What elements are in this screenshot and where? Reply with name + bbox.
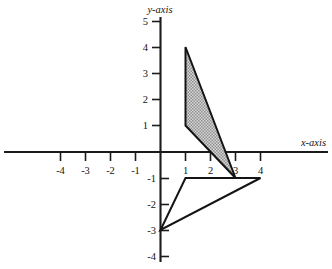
coordinate-plane-figure: -4 -3 -2 -1 1 2 3 4 5 4 3 2 1 -1 -2 -3 -…: [0, 0, 332, 269]
y-axis-label: y-axis: [146, 4, 172, 15]
unshaded-triangle-shape: [161, 178, 261, 230]
x-tick-label-neg4: -4: [56, 165, 65, 176]
x-tick-label-1: 1: [183, 165, 188, 176]
unshaded-triangle: [161, 178, 261, 230]
y-tick-label-5: 5: [143, 16, 148, 27]
axes-group: [4, 17, 328, 262]
y-axis-tick-labels: 5 4 3 2 1 -1 -2 -3 -4: [143, 16, 157, 262]
y-tick-label-2: 2: [143, 94, 148, 105]
y-tick-label-3: 3: [143, 68, 148, 79]
x-tick-label-neg2: -2: [106, 165, 115, 176]
x-tick-label-3: 3: [233, 165, 238, 176]
axis-names: y-axis x-axis: [146, 4, 326, 148]
y-tick-label-neg2: -2: [147, 199, 156, 210]
y-tick-label-neg1: -1: [147, 173, 156, 184]
y-tick-label-1: 1: [143, 120, 148, 131]
x-tick-label-neg1: -1: [131, 165, 140, 176]
plot-canvas: -4 -3 -2 -1 1 2 3 4 5 4 3 2 1 -1 -2 -3 -…: [0, 0, 332, 269]
y-tick-label-neg3: -3: [147, 225, 156, 236]
y-tick-label-neg4: -4: [147, 251, 156, 262]
y-tick-label-4: 4: [143, 42, 149, 53]
x-axis-label: x-axis: [300, 137, 326, 148]
x-tick-label-neg3: -3: [81, 165, 90, 176]
x-tick-label-2: 2: [208, 165, 213, 176]
x-tick-label-4: 4: [258, 165, 264, 176]
